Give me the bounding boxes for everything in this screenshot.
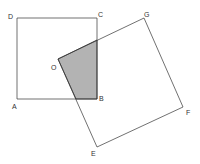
shaded-overlap-region — [58, 40, 97, 99]
label-b: B — [99, 95, 104, 102]
label-o: O — [51, 64, 57, 71]
label-c: C — [98, 11, 103, 18]
label-d: D — [8, 13, 13, 20]
label-f: F — [186, 109, 190, 116]
label-g: G — [144, 11, 149, 18]
geometry-diagram: A B C D O E F G — [0, 0, 200, 164]
label-a: A — [12, 103, 17, 110]
label-e: E — [91, 150, 96, 157]
